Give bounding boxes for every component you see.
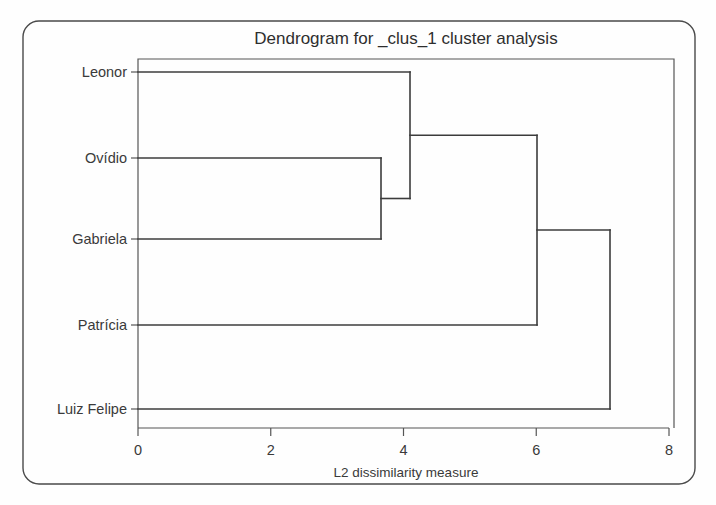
x-tick-label-6: 6 bbox=[532, 442, 540, 458]
dendrogram-figure: Dendrogram for _clus_1 cluster analysis … bbox=[0, 0, 716, 505]
leaf-label-patricia: Patrícia bbox=[78, 317, 128, 333]
dendrogram-canvas: Dendrogram for _clus_1 cluster analysis … bbox=[0, 0, 716, 505]
x-tick-label-0: 0 bbox=[134, 442, 142, 458]
x-tick-label-4: 4 bbox=[399, 442, 407, 458]
x-axis-ticks bbox=[138, 428, 669, 436]
plot-frame bbox=[138, 59, 674, 428]
leaf-label-ovidio: Ovídio bbox=[85, 150, 127, 166]
leaf-label-luiz-felipe: Luiz Felipe bbox=[57, 401, 127, 417]
x-axis-title: L2 dissimilarity measure bbox=[334, 465, 479, 480]
chart-title: Dendrogram for _clus_1 cluster analysis bbox=[254, 29, 557, 48]
leaf-ticks bbox=[131, 72, 138, 409]
x-tick-label-2: 2 bbox=[267, 442, 275, 458]
dendrogram-tree bbox=[138, 72, 610, 409]
leaf-label-leonor: Leonor bbox=[82, 64, 127, 80]
x-tick-label-8: 8 bbox=[665, 442, 673, 458]
leaf-label-gabriela: Gabriela bbox=[72, 231, 128, 247]
